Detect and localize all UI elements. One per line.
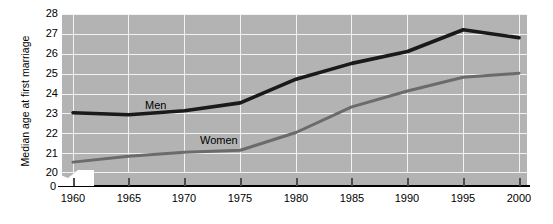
x-tickmark-2000 [519, 178, 521, 186]
y-tick-zero: 0 [32, 180, 56, 192]
x-tickmark-1985 [351, 178, 353, 186]
series-lines [62, 14, 527, 173]
series-label-women: Women [200, 134, 238, 146]
x-tick-1995: 1995 [441, 192, 485, 204]
axis-break-icon [58, 168, 94, 186]
x-tick-1985: 1985 [330, 192, 374, 204]
line-chart: Median age at first marriage 28 27 26 25… [0, 0, 553, 224]
men-line [73, 30, 519, 115]
series-label-men: Men [145, 99, 166, 111]
y-tick-27: 27 [34, 28, 58, 39]
x-tickmark-1965 [128, 178, 130, 186]
x-tick-1965: 1965 [107, 192, 151, 204]
plot-area [62, 14, 527, 173]
y-tick-28: 28 [34, 8, 58, 19]
x-tick-1980: 1980 [274, 192, 318, 204]
x-tick-1975: 1975 [218, 192, 262, 204]
x-tick-1990: 1990 [385, 192, 429, 204]
y-tick-20: 20 [34, 167, 58, 178]
plot-bottom-filler [62, 173, 527, 185]
x-tickmark-1960 [73, 178, 75, 186]
x-tickmark-1980 [296, 178, 298, 186]
y-tick-25: 25 [34, 68, 58, 79]
y-tick-24: 24 [34, 88, 58, 99]
y-tick-22: 22 [34, 128, 58, 139]
y-tick-21: 21 [34, 148, 58, 159]
y-tick-23: 23 [34, 108, 58, 119]
women-line [73, 73, 519, 162]
x-tick-1970: 1970 [162, 192, 206, 204]
x-tickmark-1990 [407, 178, 409, 186]
x-tickmark-1995 [463, 178, 465, 186]
y-axis-title: Median age at first marriage [19, 16, 31, 186]
x-tick-2000: 2000 [497, 192, 541, 204]
x-tickmark-1970 [184, 178, 186, 186]
x-tickmark-1975 [240, 178, 242, 186]
y-tick-26: 26 [34, 48, 58, 59]
x-tick-1960: 1960 [51, 192, 95, 204]
